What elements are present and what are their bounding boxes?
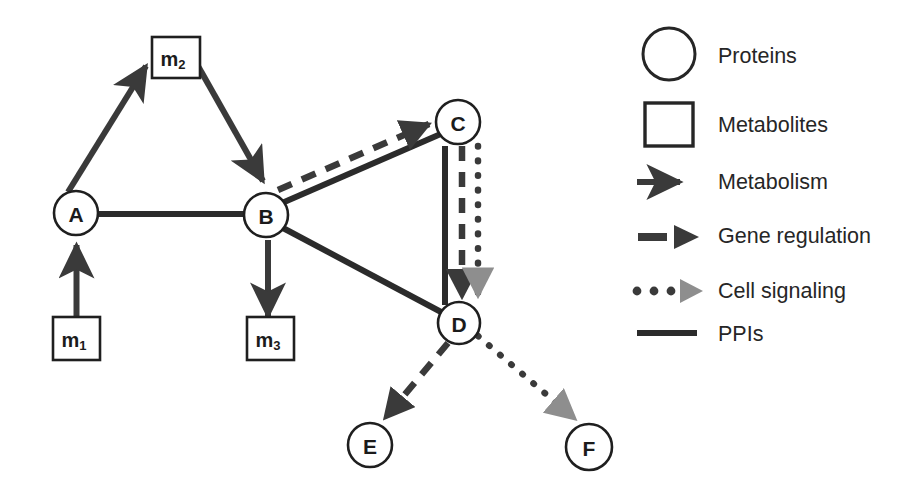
legend: Proteins Metabolites Metabolism Gene reg… xyxy=(633,28,871,346)
metabolite-base-m3: m xyxy=(255,329,273,351)
protein-label-D: D xyxy=(451,313,466,336)
network-diagram: m1 m2 m3 A B C xyxy=(0,0,915,493)
diagram-canvas: m1 m2 m3 A B C xyxy=(0,0,915,493)
edge-B-to-C-ppi xyxy=(282,133,443,203)
legend-label-ppis: PPIs xyxy=(718,322,763,346)
legend-item-metabolites[interactable]: Metabolites xyxy=(645,103,828,146)
edge-D-to-F-signal xyxy=(478,336,575,419)
legend-item-metabolism[interactable]: Metabolism xyxy=(637,170,828,194)
dashed-arrow-icon xyxy=(638,225,699,249)
metabolite-sub-m2: 2 xyxy=(178,57,185,72)
edge-A-to-m2 xyxy=(68,66,146,192)
dotted-arrow-icon xyxy=(633,279,703,303)
metabolite-node-m2[interactable]: m2 xyxy=(152,37,200,78)
edge-B-to-D-ppi xyxy=(283,228,443,313)
circle-outline-icon xyxy=(643,28,695,80)
legend-label-metabolism: Metabolism xyxy=(718,170,828,194)
metabolite-node-m1[interactable]: m1 xyxy=(53,317,100,360)
edge-m2-to-B xyxy=(198,66,263,181)
protein-label-F: F xyxy=(583,437,596,460)
protein-label-C: C xyxy=(450,112,465,135)
protein-label-B: B xyxy=(258,205,273,228)
protein-node-E[interactable]: E xyxy=(348,423,392,467)
metabolite-base-m2: m xyxy=(160,48,178,70)
protein-node-B[interactable]: B xyxy=(244,193,288,237)
metabolite-node-m3[interactable]: m3 xyxy=(247,317,294,360)
legend-item-proteins[interactable]: Proteins xyxy=(643,28,797,80)
protein-label-E: E xyxy=(363,435,377,458)
legend-item-gene-regulation[interactable]: Gene regulation xyxy=(638,224,871,249)
legend-item-cell-signaling[interactable]: Cell signaling xyxy=(633,279,846,303)
protein-layer: A B C D E F xyxy=(54,100,612,470)
protein-node-F[interactable]: F xyxy=(566,424,612,470)
legend-item-ppis[interactable]: PPIs xyxy=(637,322,763,346)
metabolite-base-m1: m xyxy=(61,329,79,351)
protein-node-A[interactable]: A xyxy=(54,191,98,235)
protein-label-A: A xyxy=(68,203,83,226)
protein-node-C[interactable]: C xyxy=(436,100,480,144)
metabolite-sub-m3: 3 xyxy=(273,338,280,353)
legend-label-proteins: Proteins xyxy=(718,44,797,68)
square-outline-icon xyxy=(645,103,693,146)
edge-B-to-C-gene xyxy=(278,124,429,190)
legend-label-gene-regulation: Gene regulation xyxy=(718,224,871,248)
edge-D-to-E-gene xyxy=(385,343,448,418)
edge-layer xyxy=(68,66,575,419)
metabolite-sub-m1: 1 xyxy=(79,338,86,353)
legend-label-metabolites: Metabolites xyxy=(718,113,828,137)
protein-node-D[interactable]: D xyxy=(438,302,480,344)
legend-label-cell-signaling: Cell signaling xyxy=(718,279,846,303)
